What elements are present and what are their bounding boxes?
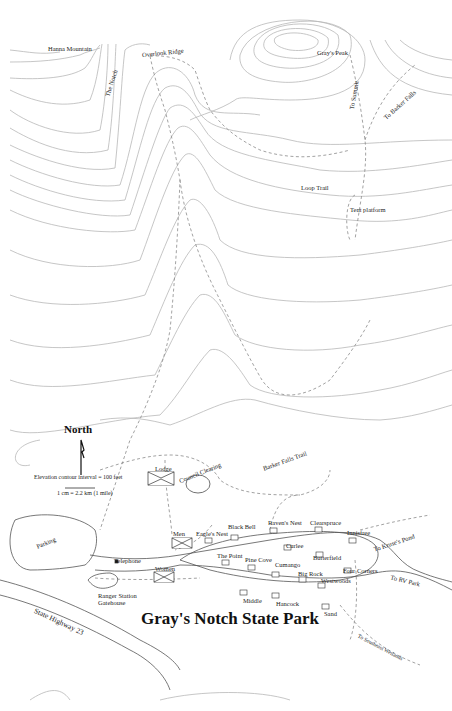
- contour-lines: [10, 20, 452, 700]
- cabin-ravens-nest: Raven's Nest: [268, 520, 302, 527]
- cabin-clearspruce: Clearspruce: [310, 520, 341, 527]
- cabin-big-rock: Big Rock: [298, 571, 323, 578]
- cabin-eagles-nest: Eagle's Nest: [196, 531, 228, 538]
- cabin-innisfree: Innisfree: [347, 530, 370, 537]
- label-tent-platform: Tent platform: [350, 207, 385, 214]
- men-building: [172, 538, 192, 548]
- contour-interval-label: Elevation contour interval = 100 feet: [34, 474, 123, 480]
- scale-label: 1 cm = 2.2 km (1 mile): [57, 490, 113, 496]
- cabin-westwoods: Westwoods: [321, 578, 351, 585]
- label-grays-peak: Gray's Peak: [317, 50, 348, 57]
- cabin-sand: Sand: [324, 611, 337, 618]
- label-gatehouse: Gatehouse: [98, 600, 125, 607]
- cabin-pine-cove: Pine Cove: [245, 557, 272, 564]
- label-women: Women: [155, 566, 175, 573]
- north-arrow: [81, 440, 84, 475]
- label-telephone: Telephone: [114, 558, 141, 565]
- women-building: [154, 572, 174, 582]
- cabin-hancock: Hancock: [276, 601, 299, 608]
- cabin-the-point: The Point: [217, 553, 242, 560]
- north-label: North: [64, 423, 92, 435]
- cabin-curlee: Curlee: [286, 543, 303, 550]
- label-men: Men: [173, 531, 185, 538]
- cabin-butterfield: Butterfield: [313, 555, 341, 562]
- label-lodge: Lodge: [155, 466, 172, 473]
- map-title: Gray's Notch State Park: [141, 609, 319, 629]
- cabin-four-corners: Four Corners: [343, 568, 377, 575]
- cabin-middle: Middle: [243, 598, 262, 605]
- cabin-cumango: Cumango: [275, 562, 300, 569]
- label-hanna-mountain: Hanna Mountain: [48, 46, 92, 53]
- lodge-building: [148, 472, 174, 485]
- label-loop-trail: Loop Trail: [301, 185, 329, 192]
- park-map: [0, 0, 452, 711]
- cabin-black-bell: Black Bell: [228, 524, 256, 531]
